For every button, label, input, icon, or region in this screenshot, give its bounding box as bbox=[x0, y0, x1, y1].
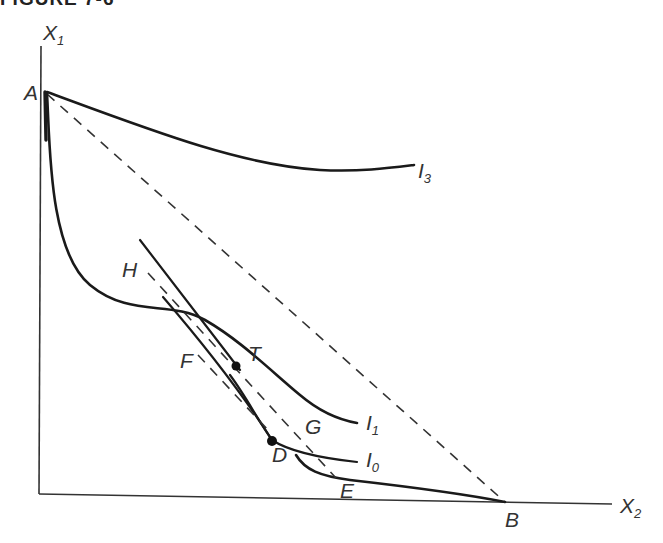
point-e-label: E bbox=[340, 479, 355, 502]
curve-a-start bbox=[45, 92, 46, 140]
x1-axis bbox=[39, 46, 41, 494]
point-d-label: D bbox=[272, 443, 287, 466]
curve-to-b bbox=[296, 455, 505, 502]
x1-axis-label: X1 bbox=[42, 21, 64, 48]
x2-axis bbox=[39, 494, 612, 504]
point-t-marker bbox=[232, 362, 241, 371]
point-g-label: G bbox=[305, 415, 321, 438]
point-f-label: F bbox=[180, 349, 194, 372]
diagram-canvas: X1 A I3 H F T G I1 D I0 E B X2 bbox=[0, 0, 663, 543]
curve-i3-label: I3 bbox=[418, 159, 432, 186]
point-a-label: A bbox=[22, 81, 38, 104]
curve-i1 bbox=[47, 94, 357, 423]
dashed-line-he bbox=[148, 273, 336, 478]
curve-i0 bbox=[163, 297, 357, 462]
curve-i3 bbox=[47, 92, 414, 171]
x2-axis-label: X2 bbox=[619, 494, 642, 521]
curve-i1-label: I1 bbox=[366, 411, 379, 438]
point-t-label: T bbox=[248, 342, 263, 365]
curve-i0-label: I0 bbox=[366, 448, 380, 475]
point-h-label: H bbox=[122, 258, 138, 281]
point-b-label: B bbox=[505, 508, 519, 531]
